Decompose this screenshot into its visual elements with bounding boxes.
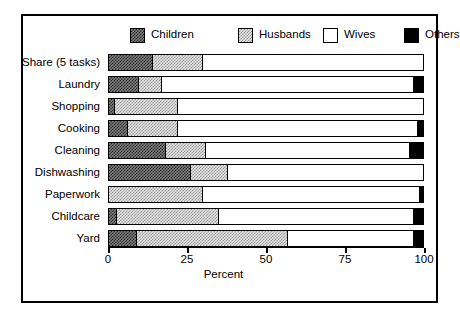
bar-segment-others (414, 209, 423, 224)
bar-segment-children (109, 143, 166, 158)
bar-segment-husbands (109, 187, 203, 202)
category-label: Laundry (12, 79, 100, 91)
bar-segment-wives (178, 99, 423, 114)
x-axis-tick-label: 75 (325, 254, 365, 266)
bar-row[interactable] (108, 98, 424, 115)
bar-row[interactable] (108, 120, 424, 137)
category-label: Dishwashing (12, 167, 100, 179)
bar-segment-others (420, 187, 423, 202)
value-axis (108, 247, 424, 249)
x-axis-tick-label: 50 (246, 254, 286, 266)
bar-row[interactable] (108, 186, 424, 203)
bar-row[interactable] (108, 208, 424, 225)
bar-segment-husbands (137, 231, 288, 246)
bar-segment-others (418, 121, 423, 136)
category-label: Paperwork (12, 189, 100, 201)
bar-segment-husbands (191, 165, 229, 180)
bar-segment-husbands (128, 121, 178, 136)
bar-segment-wives (203, 187, 420, 202)
bar-segment-children (109, 121, 128, 136)
bar-segment-wives (162, 77, 413, 92)
bar-segment-children (109, 55, 153, 70)
bar-row[interactable] (108, 230, 424, 247)
bar-segment-husbands (139, 77, 163, 92)
bar-row[interactable] (108, 54, 424, 71)
bar-row[interactable] (108, 142, 424, 159)
category-label: Share (5 tasks) (12, 57, 100, 69)
category-label: Cooking (12, 123, 100, 135)
category-label: Cleaning (12, 145, 100, 157)
bar-segment-others (410, 143, 423, 158)
bar-segment-wives (228, 165, 423, 180)
bar-segment-children (109, 209, 117, 224)
bar-segment-wives (178, 121, 418, 136)
x-axis-tick-label: 25 (167, 254, 207, 266)
bar-segment-children (109, 165, 191, 180)
bar-segment-husbands (117, 209, 219, 224)
bar-segment-husbands (115, 99, 178, 114)
category-label: Yard (12, 233, 100, 245)
bar-segment-children (109, 231, 137, 246)
bar-segment-children (109, 77, 139, 92)
bar-segment-husbands (166, 143, 207, 158)
bar-segment-others (414, 77, 423, 92)
chart-frame: ChildrenHusbandsWivesOthers Share (5 tas… (21, 14, 438, 303)
plot-area: Share (5 tasks)LaundryShoppingCookingCle… (23, 16, 436, 301)
bar-row[interactable] (108, 164, 424, 181)
category-label: Shopping (12, 101, 100, 113)
bar-segment-wives (206, 143, 410, 158)
category-label: Childcare (12, 211, 100, 223)
x-axis-title: Percent (23, 268, 424, 280)
bar-segment-wives (203, 55, 423, 70)
bar-segment-husbands (153, 55, 203, 70)
x-axis-tick-label: 0 (88, 254, 128, 266)
bar-segment-others (414, 231, 423, 246)
x-axis-tick-label: 100 (404, 254, 444, 266)
bar-segment-wives (288, 231, 414, 246)
bar-segment-wives (219, 209, 414, 224)
bar-row[interactable] (108, 76, 424, 93)
